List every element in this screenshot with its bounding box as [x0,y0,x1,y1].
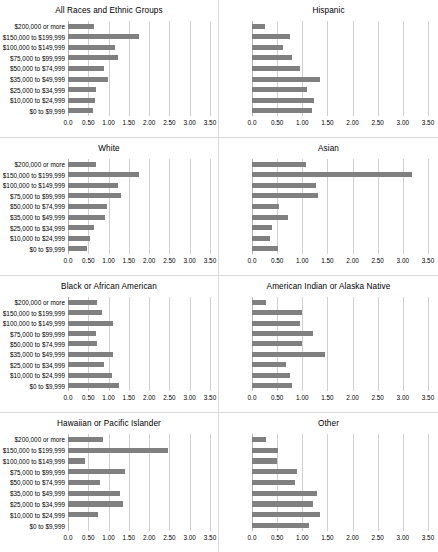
x-axis-tick-label: 3.50 [204,257,216,264]
bar-rows: $200,000 or more$150,000 to $199,999$100… [68,159,210,254]
chart-panel: Other0.00.501.001.502.002.503.003.50 [219,413,438,552]
x-axis-tick-label: 0.50 [82,394,94,401]
y-axis-label: $150,000 to $199,999 [3,447,65,454]
bar-row [252,170,428,181]
x-axis: 0.00.501.001.502.002.503.003.50 [252,391,428,405]
bar [252,34,290,39]
bar-row [252,381,428,391]
bar [252,108,312,113]
bar-row [252,520,428,531]
bar-row: $150,000 to $199,999 [68,445,210,456]
x-axis-tick-label: 2.50 [371,257,383,264]
y-axis-label: $100,000 to $149,999 [3,320,65,327]
panel-title: Black or African American [0,282,218,292]
bar [68,24,94,29]
bar [252,448,278,453]
x-axis-tick-label: 1.00 [296,119,308,126]
y-axis-label: $10,000 to $24,999 [10,372,65,379]
bar [68,162,96,167]
panel-title: All Races and Ethnic Groups [0,6,218,16]
x-axis-tick-label: 3.50 [422,394,434,401]
bar-row [252,53,428,64]
bar-rows [252,297,428,391]
bar-row [252,328,428,338]
bar [68,55,118,60]
bar-rows: $200,000 or more$150,000 to $199,999$100… [68,297,210,391]
x-axis-tick-label: 0.0 [64,394,73,401]
gridline [210,21,211,116]
x-axis: 0.00.501.001.502.002.503.003.50 [252,116,428,130]
y-axis-label: $10,000 to $24,999 [10,235,65,242]
bar-row: $100,000 to $149,999 [68,180,210,191]
bar [68,183,118,188]
bar-row [252,349,428,359]
panel-title: Hawaiian or Pacific Islander [0,419,218,429]
plot-area: $200,000 or more$150,000 to $199,999$100… [68,21,210,116]
bar-row: $25,000 to $34,999 [68,499,210,510]
bar [252,383,292,388]
x-axis-tick-label: 2.50 [371,119,383,126]
x-axis-tick-label: 3.50 [422,119,434,126]
bar-row: $50,000 to $74,999 [68,63,210,74]
x-axis-tick-label: 2.00 [143,534,155,541]
y-axis-label: $50,000 to $74,999 [10,340,65,347]
bar-row: $0 to $9,999 [68,243,210,254]
bar [68,501,123,506]
x-axis-tick-label: 1.00 [102,394,114,401]
chart-panel: All Races and Ethnic Groups$200,000 or m… [0,0,219,138]
bar-row: $150,000 to $199,999 [68,32,210,43]
bar-row [252,477,428,488]
bar-row [252,307,428,317]
bar [68,215,105,220]
bar-row: $0 to $9,999 [68,381,210,391]
bar-row: $200,000 or more [68,434,210,445]
y-axis-label: $10,000 to $24,999 [10,511,65,518]
x-axis-tick-label: 2.00 [346,534,358,541]
gridline [428,434,429,531]
x-axis-tick-label: 2.00 [346,394,358,401]
x-axis-tick-label: 2.00 [346,257,358,264]
bar-row [252,445,428,456]
panel-title: White [0,144,218,154]
y-axis-label: $25,000 to $34,999 [10,501,65,508]
bar [252,172,412,177]
bar [252,362,286,367]
bar-row [252,212,428,223]
plot-area: 0.00.501.001.502.002.503.003.50 [252,297,428,391]
bar-row [252,191,428,202]
x-axis-tick-label: 3.00 [397,394,409,401]
x-axis-tick-label: 1.00 [102,534,114,541]
plot-area: 0.00.501.001.502.002.503.003.50 [252,159,428,254]
x-axis: 0.00.501.001.502.002.503.003.50 [68,116,210,130]
bar-row [252,318,428,328]
bar-rows [252,434,428,531]
bar [68,172,139,177]
bar-row [252,84,428,95]
bar-row: $200,000 or more [68,297,210,307]
bar [68,512,98,517]
x-axis-tick-label: 2.00 [143,257,155,264]
bar-rows: $200,000 or more$150,000 to $199,999$100… [68,434,210,531]
bar-row [252,95,428,106]
x-axis-tick-label: 3.00 [183,257,195,264]
x-axis-tick-label: 2.50 [163,534,175,541]
x-axis-tick-label: 0.0 [248,119,257,126]
bar [68,383,119,388]
x-axis-tick-label: 1.50 [123,257,135,264]
bar [252,204,279,209]
bar [68,193,121,198]
bar [252,87,307,92]
bar-row: $75,000 to $99,999 [68,191,210,202]
x-axis: 0.00.501.001.502.002.503.003.50 [68,391,210,405]
bar [68,45,115,50]
bar-rows: $200,000 or more$150,000 to $199,999$100… [68,21,210,116]
y-axis-label: $0 to $9,999 [29,107,65,114]
y-axis-label: $25,000 to $34,999 [10,86,65,93]
bar [68,108,93,113]
bar-row [252,360,428,370]
bar-row: $150,000 to $199,999 [68,307,210,317]
chart-panel: Hispanic0.00.501.001.502.002.503.003.50 [219,0,438,138]
y-axis-label: $35,000 to $49,999 [10,214,65,221]
bar [252,300,266,305]
bar-row: $10,000 to $24,999 [68,370,210,380]
